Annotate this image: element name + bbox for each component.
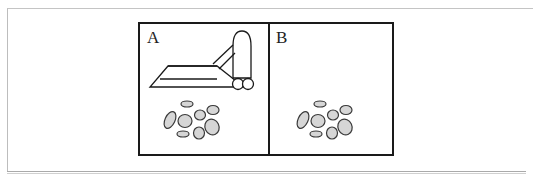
panel-a: A <box>140 24 268 154</box>
dust-particles-a-icon <box>158 96 238 146</box>
figure-box: A <box>138 22 394 156</box>
outer-frame-bottom-rule <box>7 171 526 174</box>
vacuum-cleaner-icon <box>140 24 268 104</box>
panel-b: B <box>269 24 394 154</box>
panel-b-label: B <box>276 28 287 48</box>
dust-particles-b-icon <box>291 96 371 146</box>
